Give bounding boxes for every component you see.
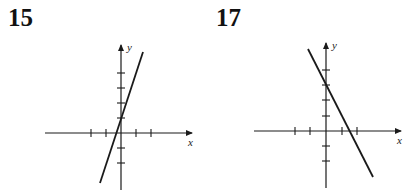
graph-17: y x (254, 39, 402, 188)
x-axis-label: x (187, 136, 193, 148)
graphs-canvas: y x y x (0, 0, 403, 194)
x-axis-label: x (396, 134, 402, 146)
y-axis-label: y (126, 41, 132, 53)
plotted-line (308, 49, 373, 177)
graph-15: y x (45, 41, 193, 190)
y-axis-label: y (331, 39, 337, 51)
